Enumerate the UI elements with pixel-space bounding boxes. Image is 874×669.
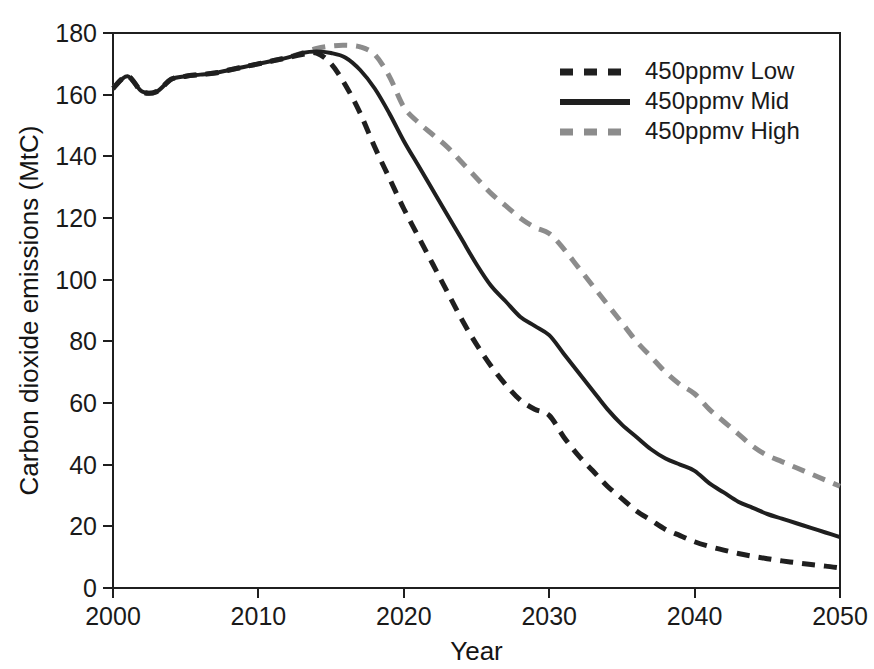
plot-frame <box>113 33 840 588</box>
y-axis-tick-label: 60 <box>69 389 97 417</box>
chart-figure: 0204060801001201401601802000201020202030… <box>0 0 874 669</box>
y-axis-tick-label: 120 <box>55 204 97 232</box>
y-axis-tick-label: 80 <box>69 327 97 355</box>
line-chart: 0204060801001201401601802000201020202030… <box>0 0 874 669</box>
x-axis-tick-label: 2030 <box>521 602 577 630</box>
x-axis-tick-label: 2020 <box>376 602 432 630</box>
legend-label-2: 450ppmv High <box>645 117 800 144</box>
legend-label-1: 450ppmv Mid <box>645 87 789 114</box>
y-axis-tick-label: 140 <box>55 142 97 170</box>
y-axis-tick-label: 180 <box>55 19 97 47</box>
x-axis-title: Year <box>450 636 503 666</box>
y-axis-tick-label: 0 <box>83 574 97 602</box>
x-axis-tick-label: 2010 <box>231 602 287 630</box>
y-axis-tick-label: 20 <box>69 512 97 540</box>
y-axis-tick-label: 40 <box>69 451 97 479</box>
x-axis-tick-label: 2040 <box>667 602 723 630</box>
x-axis-tick-label: 2000 <box>85 602 141 630</box>
x-axis-tick-label: 2050 <box>812 602 868 630</box>
y-axis-tick-label: 160 <box>55 81 97 109</box>
y-axis-title: Carbon dioxide emissions (MtC) <box>14 126 44 496</box>
legend-label-0: 450ppmv Low <box>645 57 795 84</box>
y-axis-tick-label: 100 <box>55 266 97 294</box>
